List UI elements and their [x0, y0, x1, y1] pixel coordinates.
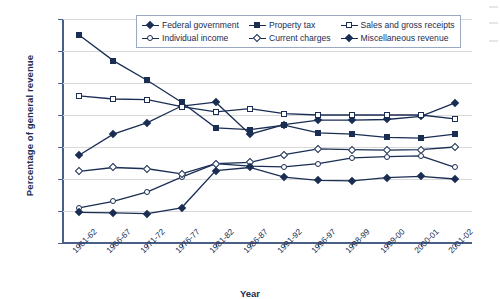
legend-item[interactable]: Miscellaneous revenue	[341, 32, 455, 44]
data-point	[110, 58, 116, 64]
legend-marker-icon	[249, 20, 266, 30]
legend-label: Current charges	[269, 32, 331, 44]
data-point	[213, 109, 219, 115]
data-point	[452, 131, 458, 137]
series-line	[79, 35, 455, 138]
data-point	[281, 164, 287, 170]
data-point	[418, 135, 424, 141]
series-lines	[62, 19, 472, 243]
data-point	[315, 130, 321, 136]
data-point	[247, 127, 253, 133]
x-tick-labels: 1961-621966-671971-721976-771981-821986-…	[62, 246, 472, 290]
legend-item[interactable]: Federal government	[142, 19, 239, 31]
data-point	[213, 125, 219, 131]
data-point	[281, 122, 287, 128]
series-line	[79, 156, 455, 208]
data-point	[110, 96, 116, 102]
legend-label: Individual income	[162, 32, 228, 44]
data-point	[144, 77, 150, 83]
data-point	[281, 111, 287, 117]
data-point	[247, 106, 253, 112]
legend-item[interactable]: Property tax	[249, 19, 331, 31]
chart-legend: Federal governmentProperty taxSales and …	[136, 15, 461, 48]
y-axis-title: Percentage of general revenue	[24, 1, 35, 251]
data-point	[452, 164, 458, 170]
data-point	[110, 198, 116, 204]
data-point	[76, 32, 82, 38]
legend-item[interactable]: Current charges	[249, 32, 331, 44]
plot-area	[62, 19, 472, 243]
series-line	[79, 167, 455, 213]
data-point	[418, 112, 424, 118]
legend-label: Property tax	[269, 19, 315, 31]
data-point	[349, 155, 355, 161]
legend-marker-icon	[249, 33, 266, 43]
y-tick-mark	[58, 243, 63, 244]
legend-item[interactable]: Sales and gross receipts	[341, 19, 455, 31]
data-point	[384, 134, 390, 140]
data-point	[384, 112, 390, 118]
data-point	[452, 116, 458, 122]
data-point	[349, 131, 355, 137]
legend-marker-icon	[341, 20, 358, 30]
legend-label: Federal government	[162, 19, 239, 31]
legend-label: Sales and gross receipts	[361, 19, 455, 31]
series-line	[79, 147, 455, 174]
x-axis-title: Year	[0, 288, 500, 299]
legend-marker-icon	[341, 33, 358, 43]
edge-artifact	[482, 6, 498, 58]
data-point	[315, 112, 321, 118]
data-point	[179, 104, 185, 110]
data-point	[144, 189, 150, 195]
legend-marker-icon	[142, 33, 159, 43]
legend-marker-icon	[142, 20, 159, 30]
data-point	[349, 112, 355, 118]
data-point	[144, 97, 150, 103]
data-point	[76, 93, 82, 99]
series-line	[79, 102, 455, 155]
data-point	[315, 161, 321, 167]
legend-item[interactable]: Individual income	[142, 32, 239, 44]
series-line	[79, 96, 455, 119]
legend-label: Miscellaneous revenue	[361, 32, 449, 44]
